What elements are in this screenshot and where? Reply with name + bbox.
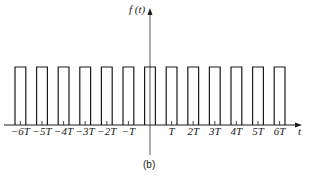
y-axis-label: f (t) — [129, 3, 146, 16]
tick-label: −4T — [54, 125, 74, 137]
pulse — [58, 67, 69, 125]
pulse — [166, 67, 177, 125]
tick-label: −3T — [76, 125, 96, 137]
tick-label: 3T — [208, 125, 222, 137]
y-axis-arrow-icon — [148, 8, 153, 15]
x-axis-label: t — [298, 125, 302, 137]
pulse — [101, 67, 112, 125]
tick-label: T — [169, 125, 176, 137]
pulse-train-diagram: −6T−5T−4T−3T−2T−TT2T3T4T5T6T f (t) t (b) — [0, 0, 309, 181]
pulse — [188, 67, 199, 125]
pulse — [253, 67, 264, 125]
tick-label: −2T — [97, 125, 117, 137]
tick-label: −T — [122, 125, 136, 137]
tick-label: −6T — [11, 125, 31, 137]
pulse — [274, 67, 285, 125]
pulse — [123, 67, 134, 125]
tick-label: 4T — [231, 125, 244, 137]
pulse — [15, 67, 26, 125]
tick-label: 2T — [187, 125, 200, 137]
pulse — [231, 67, 242, 125]
tick-label: 6T — [274, 125, 287, 137]
tick-label: −5T — [32, 125, 52, 137]
pulse — [209, 67, 220, 125]
figure-caption: (b) — [143, 159, 155, 170]
tick-label: 5T — [252, 125, 265, 137]
pulse — [80, 67, 91, 125]
tick-labels: −6T−5T−4T−3T−2T−TT2T3T4T5T6T — [11, 125, 286, 137]
pulse — [37, 67, 48, 125]
